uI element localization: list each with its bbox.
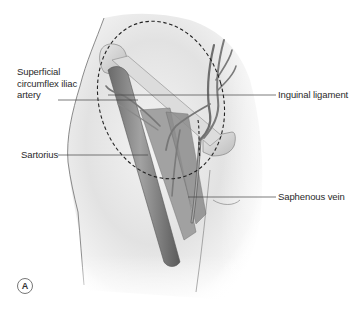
label-inguinal-ligament: Inguinal ligament [278, 89, 348, 101]
panel-label-badge: A [17, 278, 33, 294]
label-superficial-circumflex-iliac-artery: Superficial circumflex iliac artery [17, 66, 79, 101]
label-saphenous-vein: Saphenous vein [278, 191, 345, 203]
label-sartorius: Sartorius [21, 149, 58, 161]
